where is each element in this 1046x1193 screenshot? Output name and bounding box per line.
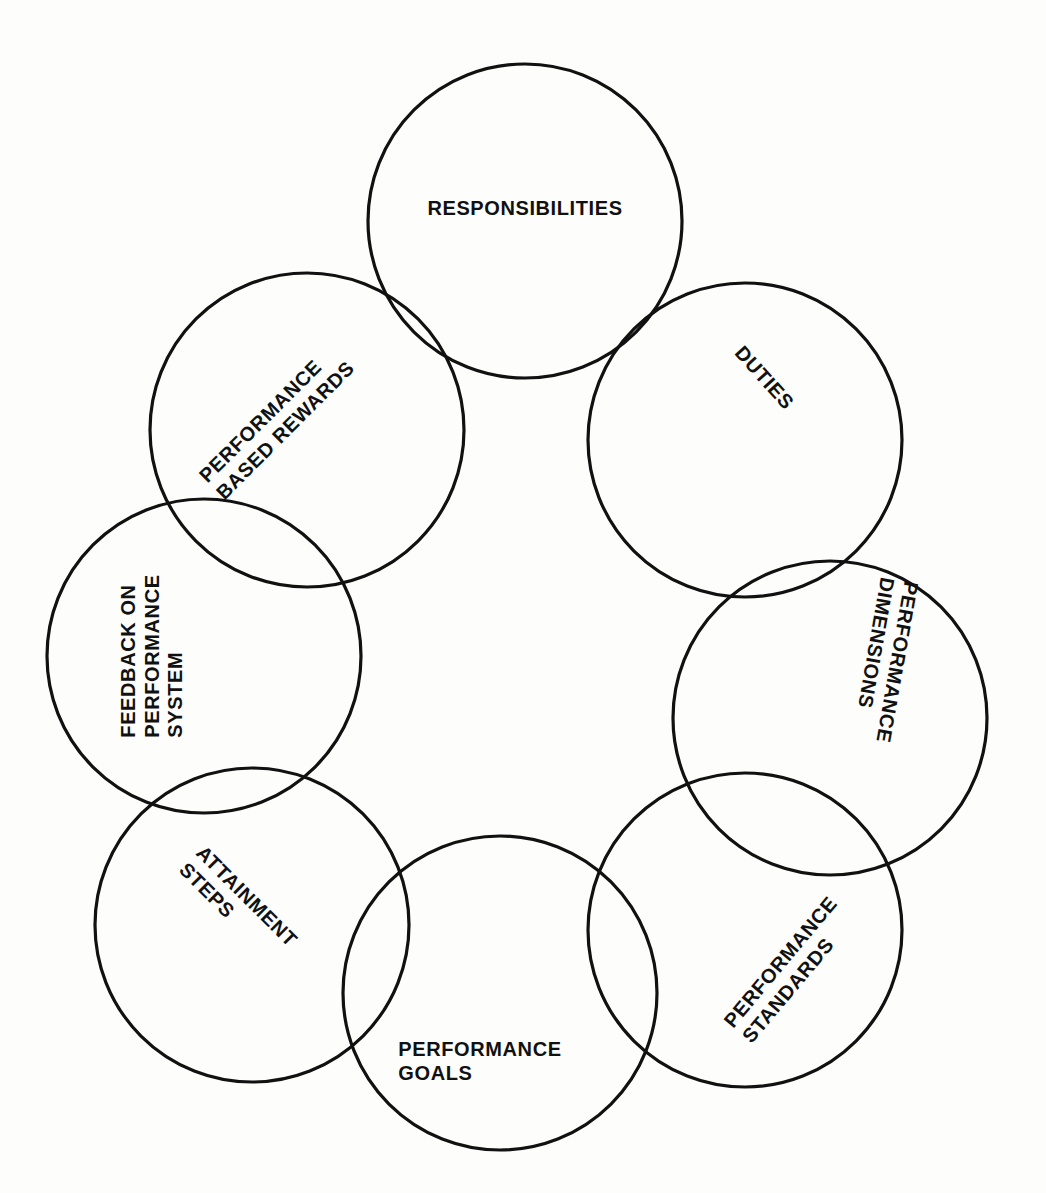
- circle-ring-graphic: [0, 0, 1046, 1193]
- node-circle-performance-goals[interactable]: [343, 836, 657, 1150]
- node-circle-performance-based-rewards[interactable]: [150, 273, 464, 587]
- node-circle-duties[interactable]: [588, 283, 902, 597]
- node-circle-feedback-on-performance-system[interactable]: [47, 499, 361, 813]
- node-circle-attainment-steps[interactable]: [95, 768, 409, 1082]
- node-circle-performance-standards[interactable]: [588, 773, 902, 1087]
- node-circle-responsibilities[interactable]: [368, 64, 682, 378]
- circles-group: [47, 64, 987, 1150]
- diagram-canvas: RESPONSIBILITIESDUTIESPERFORMANCEDIMENSI…: [0, 0, 1046, 1193]
- node-circle-performance-dimensions[interactable]: [673, 561, 987, 875]
